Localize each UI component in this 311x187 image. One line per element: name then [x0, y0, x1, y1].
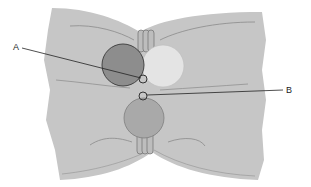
tissue-illustration — [0, 0, 311, 187]
dark-circle — [102, 44, 144, 86]
label-b: B — [286, 86, 292, 95]
light-circle — [142, 45, 184, 87]
lower-circle — [124, 98, 164, 138]
label-a: A — [13, 43, 19, 52]
diagram: A B — [0, 0, 311, 187]
tissue-membrane — [44, 8, 266, 180]
